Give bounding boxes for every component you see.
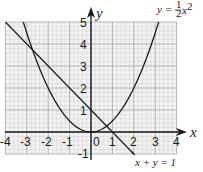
y-tick-label: 3 bbox=[80, 60, 87, 74]
y-tick-label: 4 bbox=[80, 38, 87, 52]
x-tick-label: 4 bbox=[173, 135, 180, 149]
y-tick-label: 2 bbox=[80, 82, 87, 96]
y-tick-label: -1 bbox=[78, 147, 89, 161]
x-tick-label: 3 bbox=[152, 135, 159, 149]
parabola-eq-exponent: 2 bbox=[187, 0, 193, 12]
y-tick-label: 1 bbox=[80, 104, 87, 118]
parabola-equation-label: y = 1 2 x 2 bbox=[156, 0, 193, 19]
x-tick-label: -3 bbox=[20, 135, 31, 149]
x-tick-label: 0 bbox=[93, 135, 100, 149]
y-axis-label: y bbox=[94, 5, 103, 21]
line-equation-label: x + y = 1 bbox=[134, 156, 176, 168]
parabola-eq-lhs: y = bbox=[156, 3, 172, 15]
x-tick-label: 2 bbox=[130, 135, 137, 149]
x-tick-label: -4 bbox=[0, 135, 11, 149]
parabola-eq-denominator: 2 bbox=[176, 7, 182, 19]
graph: x y -4 -3 -2 -1 0 1 2 3 4 5 4 3 2 1 -1 y… bbox=[0, 0, 203, 172]
y-tick-label: 5 bbox=[80, 16, 87, 30]
x-tick-label: -1 bbox=[62, 135, 73, 149]
x-tick-label: 1 bbox=[109, 135, 116, 149]
x-axis-label: x bbox=[189, 124, 197, 140]
x-tick-label: -2 bbox=[41, 135, 52, 149]
